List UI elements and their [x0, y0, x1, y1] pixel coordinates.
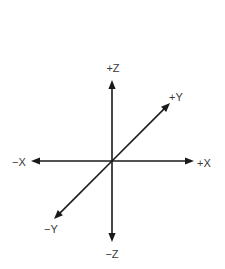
axis-line-neg-y: [60, 161, 112, 213]
arrowhead-neg-x-icon: [31, 157, 40, 164]
axis-label-pos-x: +X: [197, 157, 211, 169]
axis-label-neg-y: −Y: [44, 223, 58, 235]
axis-label-pos-y: +Y: [169, 91, 183, 103]
arrowhead-neg-z-icon: [108, 233, 115, 242]
arrowhead-pos-z-icon: [108, 80, 115, 89]
arrowhead-pos-x-icon: [185, 157, 194, 164]
axis-line-pos-y: [112, 109, 164, 161]
axis-label-neg-z: −Z: [105, 248, 118, 260]
coordinate-axes-diagram: +Z −Z −X +X +Y −Y: [0, 0, 225, 269]
axis-label-pos-z: +Z: [106, 62, 119, 74]
axes-group: [31, 80, 194, 242]
axis-label-neg-x: −X: [12, 156, 26, 168]
